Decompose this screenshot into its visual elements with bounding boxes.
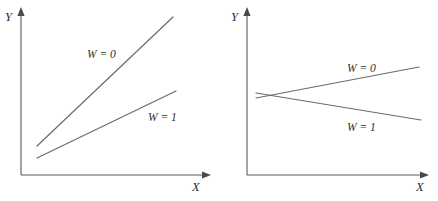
right-panel-y-axis: [243, 7, 250, 175]
left-y-axis-label: Y: [5, 10, 14, 24]
right-panel-x-axis: [247, 171, 429, 178]
right-series-line-w0: [256, 67, 419, 98]
right-series-label-w0: W = 0: [347, 62, 376, 74]
right-y-axis-label: Y: [231, 10, 240, 24]
left-series-label-w1: W = 1: [148, 111, 177, 123]
left-x-axis-arrow-icon: [202, 171, 211, 178]
right-y-axis-arrow-icon: [243, 7, 250, 16]
left-y-axis-arrow-icon: [17, 7, 24, 16]
left-series-line-w0: [37, 17, 173, 146]
left-panel: Y X W = 0 W = 1: [5, 7, 211, 194]
left-panel-x-axis: [21, 171, 211, 178]
left-series-line-w1: [37, 91, 176, 158]
right-x-axis-arrow-icon: [420, 171, 429, 178]
right-series-label-w1: W = 1: [347, 121, 376, 133]
right-series-line-w1: [256, 93, 421, 120]
right-x-axis-label: X: [415, 180, 425, 194]
two-panel-line-figure: Y X W = 0 W = 1 Y: [0, 0, 438, 201]
figure-canvas: Y X W = 0 W = 1 Y: [0, 0, 438, 201]
left-x-axis-label: X: [191, 180, 201, 194]
left-series-label-w0: W = 0: [87, 48, 116, 60]
right-panel: Y X W = 0 W = 1: [231, 7, 429, 194]
left-panel-y-axis: [17, 7, 24, 175]
